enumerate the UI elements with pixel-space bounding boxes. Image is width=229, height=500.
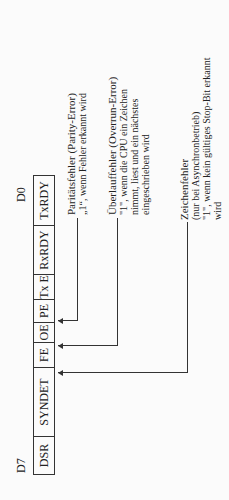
description-fe-title: Zeichenfehler bbox=[179, 57, 190, 220]
description-pe: Paritätsfehler (Parity-Error) „1“, wenn … bbox=[66, 93, 88, 215]
bit-dsr: DSR bbox=[34, 436, 54, 474]
rotated-document-page: D7 D0 DSR SYNDET FE OE PE Tx E RxRDY TxR… bbox=[0, 0, 229, 500]
description-oe-title: Überlauffehler (Overrun-Error) bbox=[107, 77, 118, 215]
msb-label: D7 bbox=[14, 458, 29, 473]
description-pe-line: „1“, wenn Fehler erkannt wird bbox=[77, 93, 88, 215]
description-fe-line: (nur bei Asynchronbetrieb) bbox=[190, 57, 201, 220]
connector-oe-vertical bbox=[58, 345, 117, 346]
connector-pe-horizontal bbox=[77, 218, 78, 321]
lsb-label: D0 bbox=[14, 187, 29, 202]
arrow-fe-icon bbox=[58, 370, 63, 376]
connector-fe-horizontal bbox=[187, 222, 188, 373]
description-oe-line: eingeschrieben wird bbox=[140, 77, 151, 215]
bit-fe: FE bbox=[34, 342, 54, 367]
connector-oe-horizontal bbox=[117, 218, 118, 346]
bit-txrdy: TxRDY bbox=[34, 176, 54, 225]
connector-pe-vertical bbox=[58, 320, 77, 321]
bit-pe: PE bbox=[34, 299, 54, 322]
bit-oe: OE bbox=[34, 322, 54, 342]
bit-txe: Tx E bbox=[34, 274, 54, 299]
description-fe: Zeichenfehler (nur bei Asynchronbetrieb)… bbox=[179, 57, 223, 220]
description-fe-line: "1", wenn kein gültiges Stop-Bit erkannt bbox=[201, 57, 212, 220]
connector-fe-vertical bbox=[58, 372, 187, 373]
description-oe-line: nimmt, liest und ein nächstes bbox=[129, 77, 140, 215]
description-oe-line: "1", wenn die CPU ein Zeichen bbox=[118, 77, 129, 215]
description-pe-title: Paritätsfehler (Parity-Error) bbox=[66, 93, 77, 215]
description-fe-line: wird bbox=[212, 57, 223, 220]
description-oe: Überlauffehler (Overrun-Error) "1", wenn… bbox=[107, 77, 151, 215]
arrow-pe-icon bbox=[58, 318, 63, 324]
bit-rxrdy: RxRDY bbox=[34, 225, 54, 274]
arrow-oe-icon bbox=[58, 343, 63, 349]
bit-syndet: SYNDET bbox=[34, 367, 54, 436]
status-register: DSR SYNDET FE OE PE Tx E RxRDY TxRDY bbox=[33, 175, 55, 475]
